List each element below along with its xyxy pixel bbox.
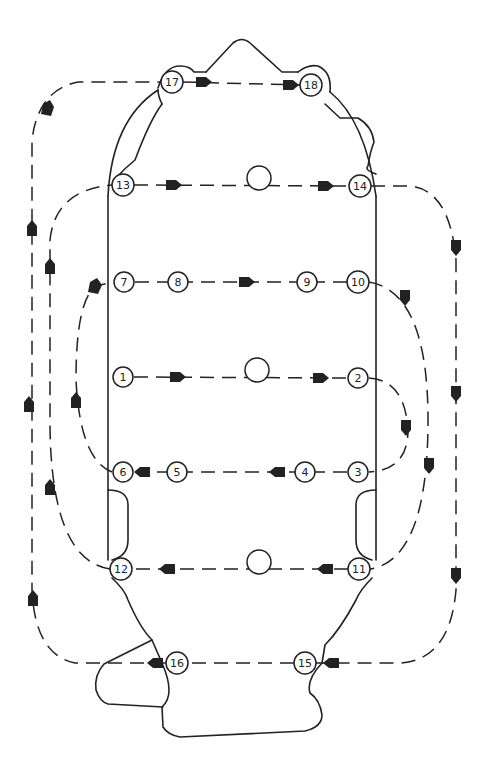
svg-text:10: 10: [351, 276, 365, 289]
arrow-right-icon: [313, 373, 329, 383]
arrow-up-icon: [27, 220, 37, 236]
arrow-up-icon: [45, 258, 55, 274]
bolt-15: 15: [294, 652, 316, 674]
svg-text:6: 6: [120, 466, 127, 479]
arrow-up-icon: [41, 100, 54, 116]
arrow-left-icon: [323, 658, 339, 668]
arrow-up-icon: [28, 590, 38, 606]
bolt-13: 13: [112, 174, 134, 196]
arrow-left-icon: [317, 564, 333, 574]
svg-text:7: 7: [121, 276, 128, 289]
svg-text:12: 12: [114, 563, 128, 576]
holes: [245, 166, 271, 574]
direction-arrows: [24, 77, 461, 668]
svg-text:3: 3: [355, 466, 362, 479]
svg-text:18: 18: [304, 79, 318, 92]
bolt-18: 18: [300, 74, 322, 96]
svg-text:16: 16: [170, 657, 184, 670]
arrow-right-icon: [196, 77, 212, 87]
bolt-2: 2: [348, 368, 368, 388]
hole-middle: [245, 358, 269, 382]
bolt-16: 16: [166, 652, 188, 674]
svg-text:15: 15: [298, 657, 312, 670]
arrow-right-icon: [283, 80, 299, 90]
bolt-9: 9: [297, 272, 317, 292]
bolt-6: 6: [113, 462, 133, 482]
arrow-right-icon: [239, 277, 255, 287]
bolt-8: 8: [168, 272, 188, 292]
arrow-right-icon: [166, 180, 182, 190]
arrow-down-icon: [424, 458, 434, 474]
arrow-down-icon: [401, 420, 411, 436]
svg-text:14: 14: [353, 180, 367, 193]
arrow-down-icon: [451, 240, 461, 256]
hole-lower: [247, 550, 271, 574]
bolt-11: 11: [348, 558, 370, 580]
svg-text:17: 17: [165, 76, 179, 89]
arrow-right-icon: [318, 181, 334, 191]
sequence-lines: [32, 82, 456, 663]
arrow-up-icon: [88, 278, 102, 294]
arrow-right-icon: [170, 372, 186, 382]
svg-text:9: 9: [304, 276, 311, 289]
bolt-5: 5: [167, 462, 187, 482]
svg-text:13: 13: [116, 179, 130, 192]
svg-text:4: 4: [302, 466, 309, 479]
bolt-17: 17: [161, 71, 183, 93]
bolt-14: 14: [349, 175, 371, 197]
svg-text:5: 5: [174, 466, 181, 479]
bolt-7: 7: [114, 272, 134, 292]
svg-text:11: 11: [352, 563, 366, 576]
arrow-down-icon: [400, 290, 410, 306]
cylinder-head-outline: [96, 40, 376, 738]
svg-text:1: 1: [120, 371, 127, 384]
arrow-down-icon: [451, 386, 461, 402]
bolt-3: 3: [348, 462, 368, 482]
bolt-10: 10: [347, 271, 369, 293]
bolt-12: 12: [110, 558, 132, 580]
arrow-down-icon: [451, 568, 461, 584]
svg-text:2: 2: [355, 372, 362, 385]
tightening-sequence-diagram: 1 2 3 4 5 6 7 8 9 10 11 12 13 14 15 16 1…: [0, 0, 486, 758]
bolts: 1 2 3 4 5 6 7 8 9 10 11 12 13 14 15 16 1…: [110, 71, 371, 674]
bolt-1: 1: [113, 367, 133, 387]
arrow-left-icon: [269, 467, 285, 477]
arrow-left-icon: [147, 658, 163, 668]
arrow-left-icon: [159, 564, 175, 574]
svg-text:8: 8: [175, 276, 182, 289]
bolt-4: 4: [295, 462, 315, 482]
arrow-up-icon: [71, 392, 81, 408]
hole-upper: [247, 166, 271, 190]
arrow-left-icon: [134, 467, 150, 477]
